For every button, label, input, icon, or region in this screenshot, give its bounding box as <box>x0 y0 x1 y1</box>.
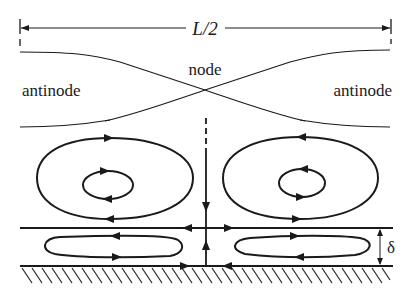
solid-wall <box>20 262 393 283</box>
arrow-down-icon <box>202 202 210 212</box>
arrow-right-icon <box>382 25 390 31</box>
acoustic-streaming-diagram: L/2 node antinode antinode <box>0 0 409 299</box>
boundary-vortex-right <box>235 232 370 261</box>
arrow-down-icon <box>377 258 383 265</box>
outer-vortex-left <box>37 134 193 223</box>
dimension-label: L/2 <box>191 18 218 39</box>
delta-indicator: δ <box>377 229 395 265</box>
center-streamline <box>202 118 210 266</box>
boundary-vortex-left <box>45 232 182 261</box>
outer-vortex-right <box>223 133 378 223</box>
arrow-left-icon <box>21 25 29 31</box>
antinode-left-label: antinode <box>22 81 81 100</box>
node-label: node <box>188 60 221 79</box>
wall-hatching <box>22 268 390 283</box>
arrow-up-icon <box>202 240 210 250</box>
inner-vortex-right <box>279 165 325 201</box>
dimension-line-l-half: L/2 <box>20 18 391 46</box>
inner-vortex-left <box>83 167 133 203</box>
delta-label: δ <box>387 238 395 257</box>
arrow-up-icon <box>377 229 383 236</box>
antinode-right-label: antinode <box>333 81 392 100</box>
